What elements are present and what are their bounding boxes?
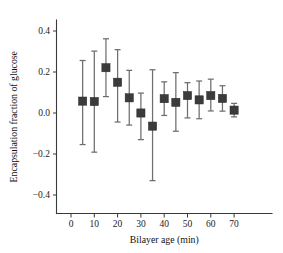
data-point — [195, 81, 203, 119]
x-tick-label: 50 — [183, 219, 193, 229]
x-tick-label: 20 — [113, 219, 123, 229]
data-point — [125, 70, 133, 125]
data-marker — [114, 78, 122, 86]
data-marker — [125, 94, 133, 102]
data-marker — [137, 109, 145, 117]
y-tick-label: 0.2 — [38, 67, 50, 77]
data-marker — [79, 97, 87, 105]
axis-labels-group: Bilayer age (min)Encapsulation fraction … — [8, 50, 199, 246]
data-point — [230, 103, 238, 117]
data-point — [207, 79, 215, 111]
x-tick-label: 0 — [69, 219, 74, 229]
data-point — [79, 61, 87, 145]
data-marker — [172, 98, 180, 106]
data-marker — [102, 64, 110, 72]
data-marker — [90, 97, 98, 105]
data-point — [218, 86, 226, 111]
data-point — [114, 50, 122, 122]
x-tick-label: 40 — [159, 219, 169, 229]
data-marker — [207, 91, 215, 99]
chart-figure: −0.4−0.20.00.20.4010203040506070 Bilayer… — [0, 0, 283, 253]
data-point — [183, 83, 191, 118]
y-tick-label: −0.2 — [33, 149, 50, 159]
x-axis-title: Bilayer age (min) — [130, 234, 199, 246]
x-tick-label: 10 — [90, 219, 100, 229]
y-tick-label: 0.0 — [38, 108, 50, 118]
data-marker — [183, 91, 191, 99]
data-marker — [230, 106, 238, 114]
x-tick-label: 30 — [136, 219, 146, 229]
x-tick-label: 70 — [229, 219, 239, 229]
data-point — [148, 70, 156, 181]
data-marker — [160, 95, 168, 103]
data-point — [90, 51, 98, 152]
data-point — [137, 93, 145, 140]
data-marker — [218, 94, 226, 102]
scatter-plot-svg: −0.4−0.20.00.20.4010203040506070 Bilayer… — [0, 0, 283, 253]
data-marker — [195, 96, 203, 104]
data-point — [160, 82, 168, 116]
data-marker — [148, 122, 156, 130]
y-axis-title: Encapsulation fraction of glucose — [8, 50, 19, 182]
data-point — [102, 39, 110, 97]
y-tick-label: −0.4 — [33, 190, 50, 200]
data-series-group — [79, 39, 239, 181]
data-point — [172, 73, 180, 132]
x-tick-label: 60 — [206, 219, 216, 229]
y-tick-label: 0.4 — [38, 26, 50, 36]
